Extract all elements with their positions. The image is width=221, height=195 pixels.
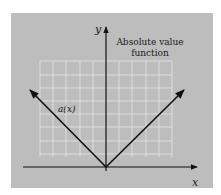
x-axis-label: x: [192, 176, 199, 189]
title-line-1: Absolute value: [115, 37, 183, 47]
curve-left-arm: [30, 90, 106, 167]
title-line-2: function: [131, 48, 169, 58]
absolute-value-diagram: y Absolute value function a(x) x: [0, 0, 221, 195]
y-axis-label: y: [94, 23, 102, 36]
curve-label: a(x): [58, 104, 76, 114]
